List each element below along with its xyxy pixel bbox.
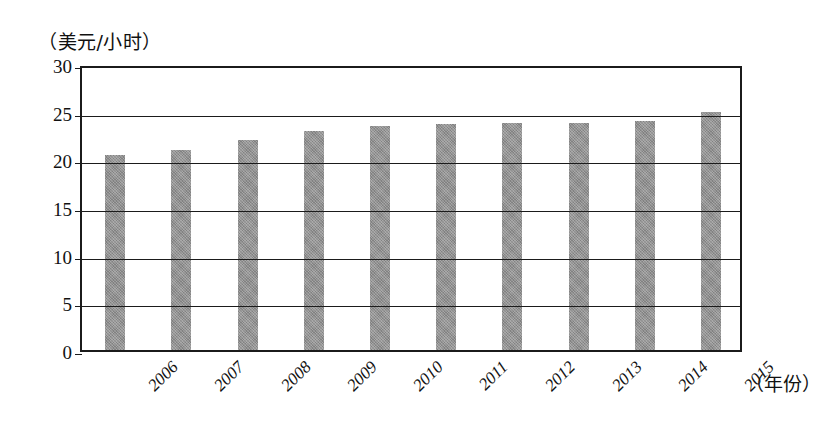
x-tick-label: 2008 <box>277 358 313 394</box>
y-tick-label: 25 <box>53 104 72 123</box>
y-tick-mark <box>75 68 82 69</box>
x-axis-tick-labels: 2006200720082009201020112012201320142015 <box>80 352 742 412</box>
bar <box>238 140 258 350</box>
y-tick-mark <box>75 354 82 355</box>
bar <box>502 123 522 350</box>
x-axis-unit-label: （年份） <box>745 369 821 396</box>
x-tick-label: 2011 <box>476 358 511 393</box>
gridline <box>82 211 740 212</box>
bar <box>635 121 655 350</box>
x-tick-label: 2010 <box>410 358 446 394</box>
x-tick-label: 2006 <box>145 358 181 394</box>
x-tick-label: 2007 <box>211 358 247 394</box>
y-tick-mark <box>75 163 82 164</box>
y-tick-label: 15 <box>53 200 72 219</box>
y-tick-label: 0 <box>63 343 73 362</box>
y-axis-unit-label: （美元/小时） <box>38 27 162 54</box>
y-tick-label: 20 <box>53 152 72 171</box>
plot-area <box>80 66 742 352</box>
bar-chart: （美元/小时） 051015202530 2006200720082009201… <box>0 0 836 429</box>
y-tick-mark <box>75 259 82 260</box>
x-tick-label: 2013 <box>608 358 644 394</box>
bar <box>370 126 390 350</box>
bar <box>105 155 125 350</box>
gridline <box>82 259 740 260</box>
bar <box>436 124 456 350</box>
y-tick-label: 10 <box>53 247 72 266</box>
gridline <box>82 116 740 117</box>
bar <box>569 123 589 350</box>
gridline <box>82 306 740 307</box>
y-axis-tick-labels: 051015202530 <box>38 66 72 352</box>
x-tick-label: 2009 <box>344 358 380 394</box>
y-tick-mark <box>75 116 82 117</box>
bar <box>701 112 721 350</box>
bar <box>171 150 191 350</box>
x-tick-label: 2012 <box>542 358 578 394</box>
y-tick-mark <box>75 306 82 307</box>
x-tick-label: 2014 <box>675 358 711 394</box>
y-tick-label: 30 <box>53 57 72 76</box>
y-tick-label: 5 <box>63 295 73 314</box>
y-tick-mark <box>75 211 82 212</box>
gridline <box>82 163 740 164</box>
